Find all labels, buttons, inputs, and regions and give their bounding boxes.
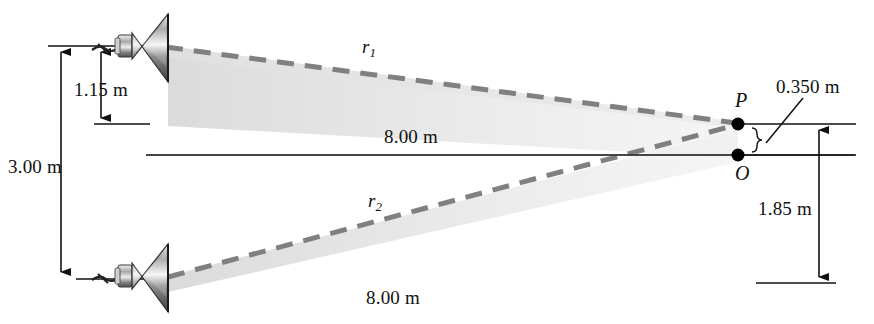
label-ray-r1: r1 bbox=[362, 36, 376, 61]
offset-brace-leader bbox=[752, 98, 803, 152]
label-ray-r2-sub: 2 bbox=[375, 199, 382, 214]
label-point-p: P bbox=[735, 89, 747, 112]
label-point-o: O bbox=[735, 162, 749, 185]
speaker-bottom-icon bbox=[92, 244, 168, 312]
label-3-00-m: 3.00 m bbox=[8, 156, 62, 178]
label-1-85-m: 1.85 m bbox=[758, 198, 812, 220]
label-1-15-m: 1.15 m bbox=[74, 79, 128, 101]
point-p-dot bbox=[732, 118, 745, 131]
label-0-350-m: 0.350 m bbox=[776, 76, 840, 98]
label-ray-r2: r2 bbox=[368, 190, 382, 215]
label-ray-r1-sub: 1 bbox=[369, 45, 376, 60]
label-8-00-m-top: 8.00 m bbox=[384, 126, 438, 148]
label-8-00-m-bottom: 8.00 m bbox=[366, 287, 420, 309]
physics-diagram: 1.15 m 3.00 m 1.85 m 0.350 m 8.00 m 8.00… bbox=[0, 0, 874, 324]
speaker-top-icon bbox=[92, 14, 168, 82]
point-o-dot bbox=[732, 149, 745, 162]
ray-r2 bbox=[168, 125, 736, 277]
